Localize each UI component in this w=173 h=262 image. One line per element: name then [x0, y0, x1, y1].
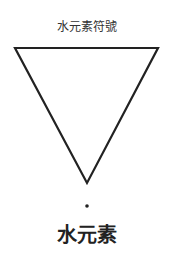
element-label: 水元素 — [0, 219, 173, 248]
dot-marker — [85, 204, 89, 208]
inverted-triangle-shape — [15, 48, 158, 183]
